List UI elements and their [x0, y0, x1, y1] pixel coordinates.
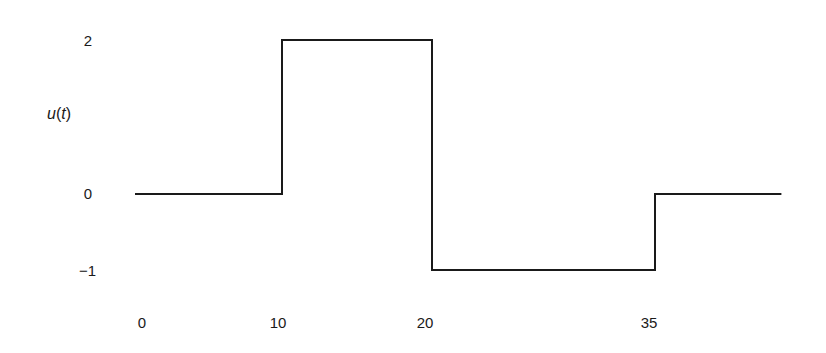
xtick-20: 20: [417, 314, 434, 331]
signal-step-line: [135, 40, 781, 270]
y-axis-label: u(t): [47, 105, 71, 122]
step-chart: 2 0 −1 u(t) 0 10 20 35: [0, 0, 826, 353]
xtick-10: 10: [270, 314, 287, 331]
xtick-0: 0: [138, 314, 146, 331]
ytick-0: 0: [84, 185, 92, 202]
ytick-neg1: −1: [79, 262, 96, 279]
xtick-35: 35: [641, 314, 658, 331]
ytick-2: 2: [84, 32, 92, 49]
